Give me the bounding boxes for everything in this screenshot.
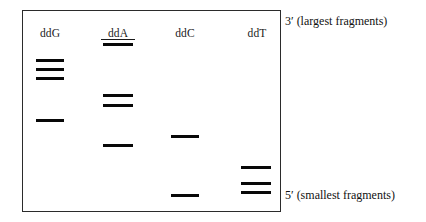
gel-band <box>36 68 64 71</box>
annotation-three-prime: 3′ (largest fragments) <box>285 15 387 28</box>
gel-band <box>36 77 64 80</box>
gel-band <box>103 104 133 107</box>
annotation-five-prime: 5′ (smallest fragments) <box>285 189 395 202</box>
gel-band <box>103 94 133 97</box>
gel-band <box>103 43 133 46</box>
lane-label-ddc: ddC <box>169 27 201 39</box>
gel-band <box>241 191 271 194</box>
lane-label-ddg: ddG <box>34 27 66 39</box>
sequencing-gel-figure: ddG ddA ddC ddT 3′ (largest fragments) 5… <box>0 0 426 222</box>
gel-band <box>171 194 199 197</box>
gel-band <box>171 135 199 138</box>
lane-label-dda: ddA <box>101 27 135 40</box>
lane-label-ddt: ddT <box>240 27 274 39</box>
gel-band <box>241 182 271 185</box>
gel-band <box>241 166 271 169</box>
gel-band <box>36 119 64 122</box>
gel-band <box>36 59 64 62</box>
gel-band <box>103 144 133 147</box>
